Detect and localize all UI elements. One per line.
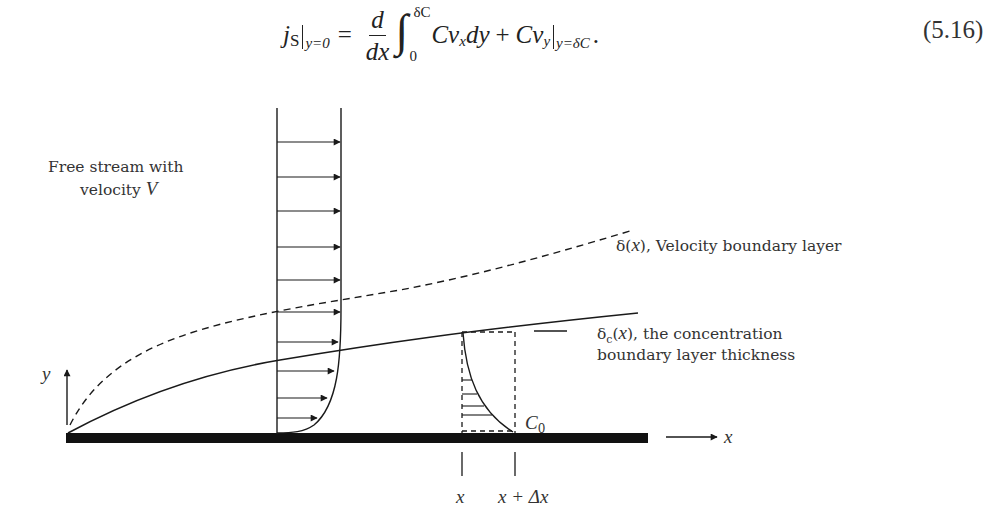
cbl-rest: ), the concentration xyxy=(627,325,782,343)
boundary-layer-diagram xyxy=(0,0,986,522)
free-stream-prefix: velocity xyxy=(80,181,146,199)
cbl-var: x xyxy=(619,322,627,343)
tick-x-label: x xyxy=(456,486,464,509)
velocity-profile-curve xyxy=(277,108,341,433)
cbl-delta: δ xyxy=(597,325,606,343)
vbl-suffix: ), Velocity boundary layer xyxy=(640,237,842,255)
flat-plate xyxy=(66,433,648,443)
concentration-profile-curve xyxy=(463,333,513,432)
x-var: x xyxy=(724,426,732,447)
vbl-prefix: δ( xyxy=(616,237,631,255)
tick-x-dx-label: x + Δx xyxy=(498,486,548,508)
control-volume xyxy=(462,332,515,433)
tick-x-var: x xyxy=(456,486,464,507)
free-stream-var-v: V xyxy=(146,178,158,199)
y-var: y xyxy=(42,363,50,384)
free-stream-label-line1: Free stream with xyxy=(48,156,184,178)
c0-label: C0 xyxy=(525,412,545,436)
x-axis-label: x xyxy=(724,426,732,449)
y-axis-label: y xyxy=(42,363,50,386)
velocity-boundary-layer-label: δ(x), Velocity boundary layer xyxy=(616,234,842,257)
concentration-boundary-layer-label-line2: boundary layer thickness xyxy=(597,344,795,366)
velocity-arrows xyxy=(277,142,340,418)
velocity-boundary-layer-curve xyxy=(70,231,630,425)
c0-main: C xyxy=(525,412,538,433)
c0-sub: 0 xyxy=(538,422,546,436)
vbl-var: x xyxy=(631,234,639,255)
free-stream-label-line2: velocity V xyxy=(80,178,157,201)
